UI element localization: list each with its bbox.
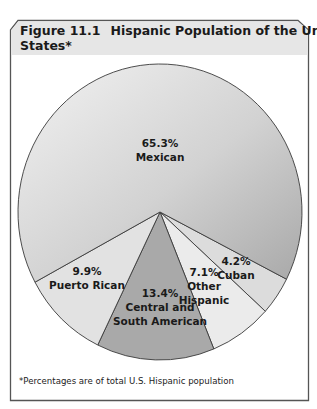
pie-chart: 4.2%Cuban7.1%OtherHispanic13.4%Central a…	[18, 64, 302, 360]
figure-11-1: Figure 11.1Hispanic Population of the Un…	[0, 0, 317, 409]
figure-title-line1: Figure 11.1Hispanic Population of the Un…	[20, 23, 317, 38]
figure-title: Hispanic Population of the United	[111, 23, 317, 38]
figure-number: Figure 11.1	[20, 23, 101, 38]
footnote: *Percentages are of total U.S. Hispanic …	[19, 376, 234, 386]
figure-title-line2: States*	[20, 38, 72, 53]
